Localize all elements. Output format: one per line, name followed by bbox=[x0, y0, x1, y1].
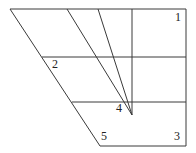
label-3: 3 bbox=[174, 129, 180, 143]
geometry-diagram: 1 2 3 4 5 bbox=[0, 0, 196, 153]
fan-line-middle bbox=[98, 9, 132, 115]
fan-line-left bbox=[67, 9, 132, 115]
label-1: 1 bbox=[175, 10, 181, 24]
label-4: 4 bbox=[116, 101, 122, 115]
label-5: 5 bbox=[101, 129, 107, 143]
label-2: 2 bbox=[52, 57, 58, 71]
outer-trapezoid bbox=[10, 9, 186, 146]
